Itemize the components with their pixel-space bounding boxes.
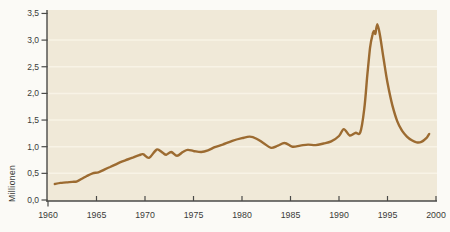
x-tick-label: 1980: [232, 210, 252, 220]
y-axis-title: Millionen: [7, 158, 17, 202]
x-tick-label: 1995: [378, 210, 398, 220]
plot-area: [47, 10, 437, 201]
y-tick-label: 1,5: [27, 115, 39, 125]
x-tick-label: 1990: [329, 210, 349, 220]
x-tick-label: 1970: [135, 210, 155, 220]
line-chart-figure: 0,00,51,01,52,02,53,03,51960196519701975…: [0, 0, 450, 232]
y-tick-label: 0,0: [27, 195, 39, 205]
y-tick-label: 2,5: [27, 62, 39, 72]
x-tick-label: 2000: [426, 210, 446, 220]
x-tick-label: 1975: [184, 210, 204, 220]
chart-canvas: 0,00,51,01,52,02,53,03,51960196519701975…: [0, 0, 450, 232]
y-tick-label: 3,0: [27, 35, 39, 45]
x-tick-label: 1985: [281, 210, 301, 220]
y-tick-label: 3,5: [27, 8, 39, 18]
y-tick-label: 2,0: [27, 88, 39, 98]
x-tick-label: 1965: [87, 210, 107, 220]
y-tick-label: 0,5: [27, 168, 39, 178]
y-tick-label: 1,0: [27, 142, 39, 152]
x-tick-label: 1960: [38, 210, 58, 220]
